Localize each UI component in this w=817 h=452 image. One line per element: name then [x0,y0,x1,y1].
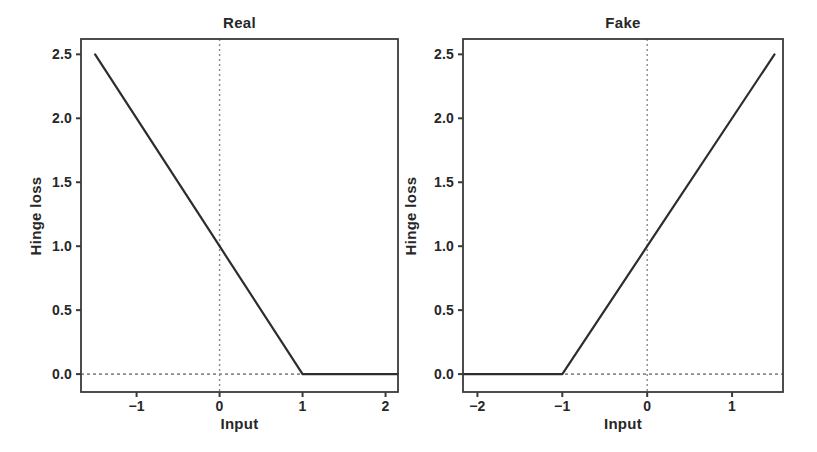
x-tick-label: 1 [299,398,307,414]
hinge-loss-figure: −10120.00.51.01.52.02.5−2−1010.00.51.01.… [0,0,817,452]
plot-fake-title: Fake [463,14,783,31]
hinge-loss-fake-line [463,54,775,374]
plot-fake-x-axis-label: Input [463,415,783,432]
y-tick-label: 0.0 [52,366,72,382]
y-tick-label: 1.0 [52,238,72,254]
plot-real-y-axis-label: Hinge loss [27,171,45,261]
plot-real-title: Real [81,14,398,31]
y-tick-label: 0.0 [434,366,454,382]
y-tick-label: 2.5 [434,46,454,62]
axes-frame-real [81,39,398,392]
y-tick-label: 0.5 [434,302,454,318]
x-tick-label: 0 [216,398,224,414]
x-tick-label: −1 [554,398,570,414]
x-tick-label: 1 [728,398,736,414]
x-tick-label: 0 [643,398,651,414]
x-tick-label: −2 [469,398,485,414]
axes-frame-fake [463,39,783,392]
y-tick-label: 2.0 [52,110,72,126]
hinge-loss-real-line [95,54,398,374]
y-tick-label: 1.5 [434,174,454,190]
y-tick-label: 1.5 [52,174,72,190]
plot-real-x-axis-label: Input [81,415,398,432]
y-tick-label: 2.5 [52,46,72,62]
plot-fake-y-axis-label: Hinge loss [402,171,420,261]
y-tick-label: 2.0 [434,110,454,126]
y-tick-label: 0.5 [52,302,72,318]
x-tick-label: −1 [128,398,144,414]
y-tick-label: 1.0 [434,238,454,254]
x-tick-label: 2 [382,398,390,414]
